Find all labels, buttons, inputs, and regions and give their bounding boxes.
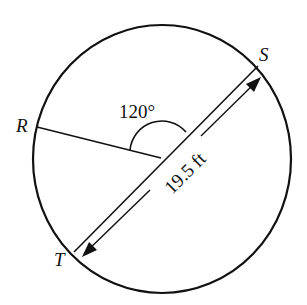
circle-diagram: S R T 120° 19.5 ft bbox=[0, 0, 307, 305]
angle-label: 120° bbox=[119, 101, 155, 122]
point-label-r: R bbox=[15, 115, 28, 136]
dimension-line-upper bbox=[201, 80, 258, 136]
radius-r bbox=[37, 127, 161, 158]
dimension-line-lower bbox=[84, 190, 150, 254]
circle bbox=[33, 25, 291, 293]
diameter-label: 19.5 ft bbox=[160, 147, 210, 197]
angle-arc bbox=[130, 121, 186, 150]
point-label-s: S bbox=[259, 44, 269, 65]
point-label-t: T bbox=[54, 249, 66, 270]
diameter-st bbox=[74, 66, 258, 252]
